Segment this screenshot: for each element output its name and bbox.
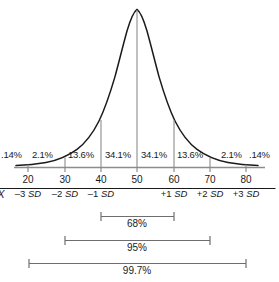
band-label-68: 68% — [127, 219, 147, 229]
sd-label-pos2: +2 SD — [197, 189, 224, 199]
sd-unit-pos2: SD — [210, 188, 223, 199]
region-percent-above-pos3sd: .14% — [249, 150, 270, 160]
region-percent-below-neg3sd: .14% — [1, 150, 22, 160]
sd-unit-pos1: SD — [174, 188, 187, 199]
axis-tick-label-70: 70 — [204, 175, 215, 185]
normal-distribution-figure: .14% 2.1% 13.6% 34.1% 34.1% 13.6% 2.1% .… — [0, 0, 279, 282]
distribution-chart-svg — [0, 0, 279, 282]
xbar-letter: X — [0, 188, 5, 200]
axis-tick-label-20: 20 — [22, 175, 33, 185]
axis-tick-label-50: 50 — [131, 175, 142, 185]
region-percent-pos1-to-pos2sd: 13.6% — [177, 150, 203, 160]
axis-tick-label-30: 30 — [59, 175, 70, 185]
band-label-997: 99.7% — [123, 266, 151, 276]
sd-sign-pos3: +3 — [233, 188, 244, 199]
axis-tick-label-60: 60 — [168, 175, 179, 185]
band-label-95: 95% — [127, 243, 147, 253]
sd-sign-pos2: +2 — [197, 188, 208, 199]
sd-label-pos1: +1 SD — [161, 189, 188, 199]
sd-unit-pos3: SD — [246, 188, 259, 199]
sd-label-pos3: +3 SD — [233, 189, 260, 199]
region-percent-mean-to-pos1sd: 34.1% — [141, 150, 167, 160]
axis-tick-label-40: 40 — [95, 175, 106, 185]
region-percent-neg3-to-neg2sd: 2.1% — [32, 150, 53, 160]
sd-sign-pos1: +1 — [161, 188, 172, 199]
region-percent-pos2-to-pos3sd: 2.1% — [221, 150, 242, 160]
axis-tick-label-80: 80 — [240, 175, 251, 185]
region-percent-neg1sd-to-mean: 34.1% — [105, 150, 131, 160]
region-percent-neg2-to-neg1sd: 13.6% — [68, 150, 94, 160]
sd-division-lines — [28, 10, 246, 168]
